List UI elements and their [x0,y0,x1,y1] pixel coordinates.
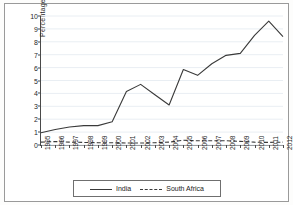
legend-label-south-africa: South Africa [166,185,204,192]
legend-swatch-solid-icon [90,186,112,192]
x-axis-tick-mark [183,145,184,148]
legend-item-south-africa[interactable]: South Africa [140,185,204,192]
x-axis-tick-label: 2011 [272,136,279,150]
x-axis-tick-label: 2009 [243,136,250,150]
x-axis-tick-label: 2006 [201,136,208,150]
y-axis-tick-mark [38,93,41,94]
x-axis-tick-label: 2008 [229,136,236,150]
x-axis-tick-label: 1998 [87,136,94,150]
x-axis-tick-mark [212,145,213,148]
y-axis-tick-mark [38,41,41,42]
x-axis-tick-mark [155,145,156,148]
plot-wrapper: Percentage 01234567891019951996199719981… [0,0,293,205]
x-axis-tick-mark [126,145,127,148]
x-axis-tick-mark [69,145,70,148]
x-axis-tick-mark [98,145,99,148]
x-axis-tick-label: 2004 [172,136,179,150]
x-axis-tick-mark [141,145,142,148]
x-axis-tick-mark [55,145,56,148]
legend: India South Africa [73,180,221,197]
x-axis-tick-label: 2005 [186,136,193,150]
x-axis-tick-mark [41,145,42,148]
x-axis-tick-mark [226,145,227,148]
x-axis-tick-label: 2001 [129,136,136,150]
x-axis-tick-mark [269,145,270,148]
series-lines [41,16,283,145]
x-axis-tick-label: 2012 [286,136,293,150]
y-axis-tick-mark [38,80,41,81]
y-axis-tick-mark [38,28,41,29]
x-axis-tick-label: 2002 [144,136,151,150]
x-axis-tick-label: 2003 [158,136,165,150]
legend-swatch-dashed-icon [140,186,162,192]
x-axis-tick-mark [255,145,256,148]
y-axis-tick-label: 10 [30,13,38,20]
x-axis-tick-label: 1995 [44,136,51,150]
y-axis-tick-mark [38,132,41,133]
y-axis-tick-mark [38,67,41,68]
x-axis-tick-mark [169,145,170,148]
y-axis-tick-mark [38,106,41,107]
x-axis-tick-mark [112,145,113,148]
y-axis-tick-mark [38,54,41,55]
series-line-india [41,21,283,133]
plot-area: Percentage 01234567891019951996199719981… [40,16,283,146]
x-axis-tick-label: 1999 [101,136,108,150]
x-axis-tick-label: 1996 [58,136,65,150]
x-axis-tick-label: 2010 [258,136,265,150]
legend-label-india: India [116,185,131,192]
x-axis-tick-mark [283,145,284,148]
legend-item-india[interactable]: India [90,185,131,192]
x-axis-tick-label: 2000 [115,136,122,150]
y-axis-tick-mark [38,119,41,120]
y-axis-tick-mark [38,16,41,17]
x-axis-tick-label: 2007 [215,136,222,150]
x-axis-tick-mark [198,145,199,148]
figure: Percentage 01234567891019951996199719981… [0,0,293,205]
x-axis-tick-mark [84,145,85,148]
x-axis-tick-mark [240,145,241,148]
x-axis-tick-label: 1997 [72,136,79,150]
